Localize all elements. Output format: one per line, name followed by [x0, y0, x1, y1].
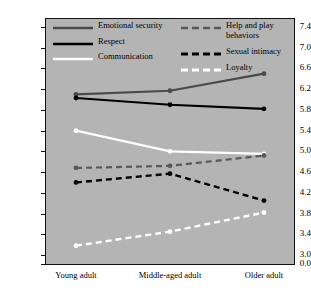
- y-axis-tick-mark: [41, 151, 46, 152]
- x-axis-tick-label: Older adult: [204, 270, 311, 280]
- legend-label: Loyalty: [226, 62, 252, 72]
- y-axis-tick-label: 5.0: [287, 146, 311, 155]
- y-axis-tick-label: 3.4: [287, 229, 311, 238]
- y-axis-tick-mark: [41, 172, 46, 173]
- line-chart: 7.47.06.66.25.85.45.04.64.23.83.43.00.0 …: [0, 0, 311, 303]
- y-axis-tick-label: 6.2: [287, 84, 311, 93]
- y-axis-tick-mark: [41, 68, 46, 69]
- legend-label: Emotional security: [98, 20, 162, 30]
- y-axis-tick-mark: [41, 110, 46, 111]
- y-axis-tick-mark: [41, 48, 46, 49]
- y-axis-tick-mark: [41, 214, 46, 215]
- y-axis-tick-label: 0.0: [287, 259, 311, 268]
- y-axis-tick-label: 5.8: [287, 105, 311, 114]
- y-axis-tick-mark: [41, 193, 46, 194]
- y-axis-tick-label: 4.6: [287, 167, 311, 176]
- y-axis-tick-mark: [41, 255, 46, 256]
- legend-label: Communication: [98, 51, 153, 61]
- y-axis-tick-mark: [41, 131, 46, 132]
- y-axis-tick-label: 5.4: [287, 126, 311, 135]
- legend-label: Respect: [98, 36, 125, 46]
- y-axis-tick-mark: [41, 234, 46, 235]
- y-axis-tick-mark: [41, 89, 46, 90]
- y-axis-tick-mark: [41, 27, 46, 28]
- legend-label: Sexual intimacy: [226, 46, 281, 56]
- y-axis-tick-mark: [41, 264, 46, 265]
- y-axis-tick-label: 4.2: [287, 188, 311, 197]
- y-axis-tick-label: 3.8: [287, 209, 311, 218]
- chart-legend: Emotional securityRespectCommunicationHe…: [52, 22, 292, 84]
- legend-label: Help and play behaviors: [226, 20, 300, 40]
